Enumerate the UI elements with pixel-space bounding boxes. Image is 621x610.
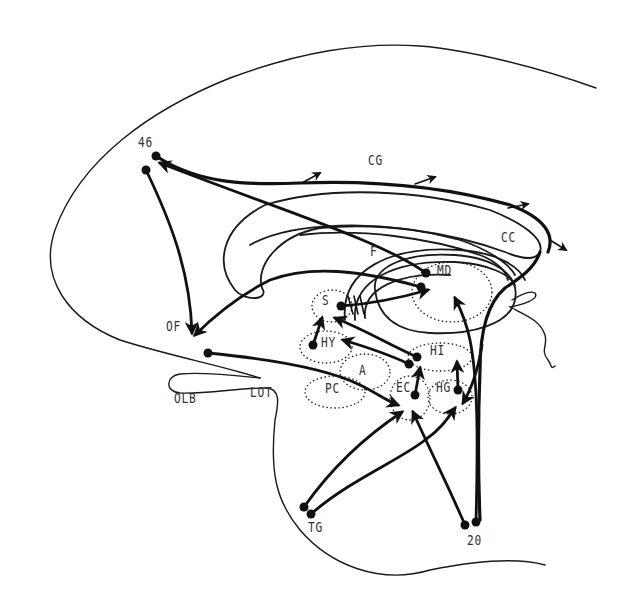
node-tg1 <box>300 503 309 512</box>
tg-to-ec-path <box>304 412 402 507</box>
node-20b <box>472 518 481 527</box>
label-20: 20 <box>467 532 482 548</box>
node-hg1 <box>454 386 463 395</box>
label-hi: HI <box>430 342 445 358</box>
label-tg: TG <box>308 519 323 535</box>
label-olb: OLB <box>174 390 197 406</box>
node-hi2 <box>405 360 414 369</box>
of-to-ec-path <box>208 353 398 405</box>
node-tg2 <box>307 510 316 519</box>
label-ec: EC <box>396 379 411 395</box>
label-of: OF <box>166 318 181 334</box>
label-f: F <box>370 243 378 259</box>
label-hy: HY <box>321 334 336 350</box>
label-hg: HG <box>436 379 451 395</box>
label-pc: PC <box>325 380 340 396</box>
node-s1 <box>337 302 346 311</box>
brain-connectivity-diagram: 46CGCCFMDSOFHYHIAPCECHGOLBLOTTG20 <box>0 0 621 610</box>
46-to-of-path <box>146 170 192 333</box>
node-md2 <box>417 283 426 292</box>
label-s: S <box>322 292 330 308</box>
corpus-callosum-inner-2 <box>300 233 508 280</box>
label-46: 46 <box>138 134 153 150</box>
node-46b <box>142 166 151 175</box>
fornix-arc-2 <box>355 262 515 320</box>
md-to-46-path <box>160 163 426 273</box>
node-20a <box>461 521 470 530</box>
label-md: MD <box>437 262 452 278</box>
node-ec1 <box>411 391 420 400</box>
label-lot: LOT <box>250 384 273 400</box>
brain-outline-upper <box>50 45 596 378</box>
cg-side-arrow-4 <box>550 240 566 250</box>
cg-side-arrow-2 <box>415 177 435 184</box>
corpus-callosum-outer <box>224 192 541 298</box>
node-hy1 <box>309 341 318 350</box>
node-hi1 <box>413 353 422 362</box>
olfactory-bulb-outline <box>169 373 545 575</box>
node-46a <box>152 152 161 161</box>
node-of-src <box>204 349 213 358</box>
label-a: A <box>359 362 367 378</box>
cingulum-tract <box>156 156 550 252</box>
hi-to-hy-path <box>343 340 409 364</box>
label-cc: CC <box>501 229 516 245</box>
label-cg: CG <box>368 152 383 168</box>
node-md1 <box>422 269 431 278</box>
fornix-arc-1 <box>345 249 525 320</box>
brainstem-outline-inner <box>510 292 555 367</box>
